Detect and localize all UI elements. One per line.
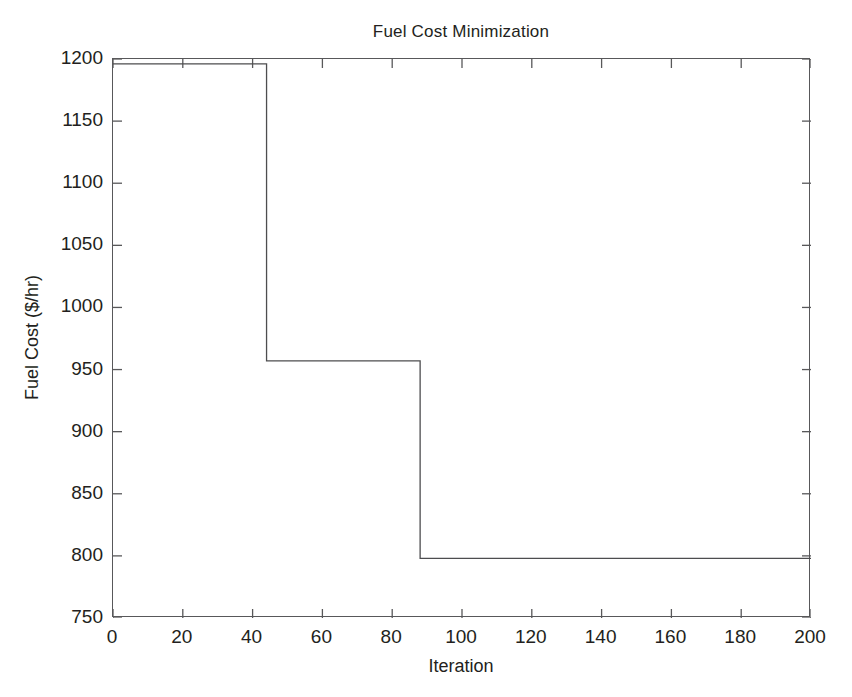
y-tick-label: 1050 xyxy=(61,233,103,255)
plot-area xyxy=(112,58,810,617)
y-tick-label: 1150 xyxy=(62,109,103,131)
x-tick-label: 20 xyxy=(171,626,192,648)
y-tick-label: 1100 xyxy=(62,171,103,193)
y-axis-label: Fuel Cost ($/hr) xyxy=(22,58,56,617)
x-tick-label: 40 xyxy=(241,626,262,648)
y-tick-label: 950 xyxy=(71,358,103,380)
x-tick-label: 0 xyxy=(107,626,118,648)
x-tick-label: 200 xyxy=(794,626,826,648)
x-axis-label: Iteration xyxy=(112,656,810,677)
axis-ticks xyxy=(113,59,811,618)
x-tick-label: 120 xyxy=(515,626,547,648)
x-axis-tick-labels: 0 20 40 60 80 100 120 140 160 180 200 xyxy=(112,626,810,652)
x-tick-label: 160 xyxy=(655,626,687,648)
y-tick-label: 900 xyxy=(71,420,103,442)
y-tick-label: 1200 xyxy=(61,47,103,69)
x-tick-label: 180 xyxy=(724,626,756,648)
x-tick-label: 140 xyxy=(585,626,617,648)
page-title: Fuel Cost Minimization xyxy=(112,22,810,42)
y-tick-label: 800 xyxy=(71,544,103,566)
y-tick-label: 750 xyxy=(71,606,103,628)
x-tick-label: 80 xyxy=(381,626,402,648)
figure-canvas: Fuel Cost Minimization 1200 1150 1100 10… xyxy=(0,0,852,697)
y-tick-label: 1000 xyxy=(61,295,103,317)
plot-svg xyxy=(113,59,811,618)
y-tick-label: 850 xyxy=(71,482,103,504)
data-series-line xyxy=(113,64,811,558)
x-tick-label: 100 xyxy=(445,626,477,648)
x-tick-label: 60 xyxy=(311,626,332,648)
